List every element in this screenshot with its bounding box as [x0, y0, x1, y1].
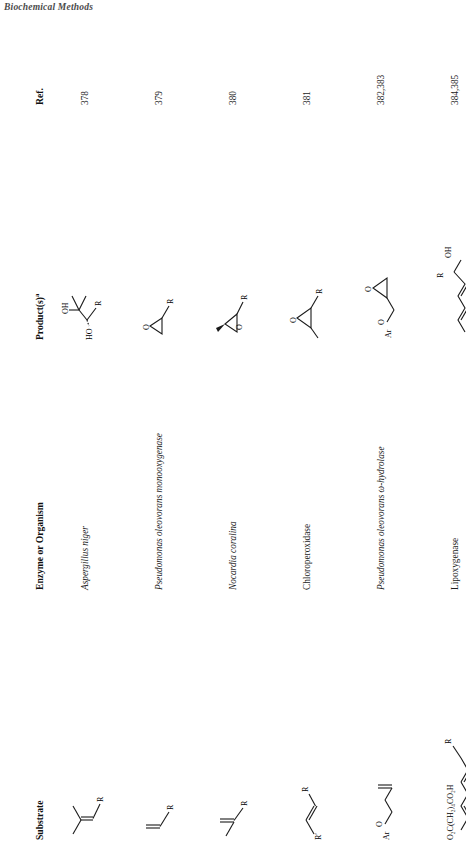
table-row: R Nocardia coralina: [196, 20, 270, 840]
skeletal-structure-allyl-aryl-ether: Ar O: [361, 762, 401, 840]
substrate-cell-5: Ar O: [344, 590, 418, 840]
structure-product-3: O R: [213, 111, 253, 340]
ref-cell-2: 379: [122, 20, 196, 105]
skeletal-structure-chiral-epoxide-wedge: O R: [213, 280, 253, 340]
skeletal-structure-terminal-epoxide: O R: [140, 284, 178, 340]
atom-label-r: R: [166, 298, 175, 304]
column-header-ref: Ref.: [33, 20, 48, 105]
ref-cell-4: 381: [270, 20, 344, 105]
structure-substrate-3: R: [214, 596, 252, 840]
atom-label-oh-top: OH: [61, 302, 70, 314]
atom-label-o: O: [235, 324, 244, 330]
enzyme-cell-3: Nocardia coralina: [196, 340, 270, 590]
atom-label-ar: Ar: [382, 831, 391, 840]
substrate-cell-6: O₂C(CH₂)₄CO₂H R: [418, 590, 466, 840]
substrate-cell-3: R: [196, 590, 270, 840]
column-header-enzyme: Enzyme or Organism: [33, 340, 48, 590]
atom-label-r: R: [240, 294, 249, 300]
atom-label-r: R: [315, 288, 324, 294]
table-row: Ar O Pseudomonas oleovorans ω-hydrolase: [344, 20, 418, 840]
enzyme-cell-5: Pseudomonas oleovorans ω-hydrolase: [344, 340, 418, 590]
skeletal-structure-aryloxymethyl-epoxide: Ar O O: [357, 254, 405, 340]
structure-substrate-4: R′ R: [288, 596, 326, 840]
skeletal-structure-tertiary-diol: OH HO R: [63, 266, 107, 340]
structure-substrate-5: Ar O: [361, 596, 401, 840]
ref-cell-6: 384,385: [418, 20, 466, 105]
table-row: R′ R Chloroperoxidase: [270, 20, 344, 840]
skeletal-structure-terminal-alkene: R: [140, 790, 178, 840]
ref-cell-1: 378: [48, 20, 122, 105]
column-header-product-label: Product(s): [34, 297, 45, 340]
product-cell-2: O R: [122, 105, 196, 340]
table-row: R Aspergillus niger: [48, 20, 122, 840]
structure-substrate-1: R: [65, 596, 105, 840]
product-cell-3: O R: [196, 105, 270, 340]
skeletal-structure-trisubstituted-alkene: R: [65, 782, 105, 840]
structure-product-4: O R: [287, 111, 327, 340]
atom-label-o: O: [142, 324, 151, 330]
skeletal-structure-disubstituted-epoxide: O R: [287, 274, 327, 340]
skeletal-structure-conjugated-hydroxy-diene: R OH: [429, 228, 466, 340]
atom-label-r: R: [240, 800, 249, 806]
column-header-product: Product(s)a: [33, 105, 48, 340]
atom-label-ho: HO: [85, 328, 94, 340]
structure-substrate-6: O₂C(CH₂)₄CO₂H R: [429, 596, 466, 840]
enzyme-cell-1: Aspergillus niger: [48, 340, 122, 590]
atom-label-r: R: [94, 300, 103, 306]
enzyme-cell-4: Chloroperoxidase: [270, 340, 344, 590]
structure-substrate-2: R: [140, 596, 178, 840]
table-header-row: Substrate Enzyme or Organism Product(s)a…: [33, 20, 48, 840]
atom-label-r-prime: R′: [314, 832, 323, 839]
atom-label-r: R: [436, 272, 445, 278]
rotated-table: Substrate Enzyme or Organism Product(s)a…: [33, 20, 433, 840]
book-page: Biochemical Methods Substrate Enzyme or …: [0, 0, 466, 859]
rotated-table-wrapper: Substrate Enzyme or Organism Product(s)a…: [0, 0, 466, 859]
product-cell-5: Ar O O: [344, 105, 418, 340]
atom-label-r: R: [166, 804, 175, 810]
ref-cell-5: 382,383: [344, 20, 418, 105]
skeletal-structure-1-1-disubstituted-alkene: R: [214, 786, 252, 840]
structure-product-1: OH HO R: [63, 111, 107, 340]
table-row: O₂C(CH₂)₄CO₂H R Lipoxygenase: [418, 20, 466, 840]
structure-product-2: O R: [140, 111, 178, 340]
stereo-wedge-bold: [216, 324, 225, 332]
enzyme-cell-6: Lipoxygenase: [418, 340, 466, 590]
substrate-cell-2: R: [122, 590, 196, 840]
table-row: R Pseudomonas oleovorans monooxygenase: [122, 20, 196, 840]
atom-label-oh: OH: [444, 246, 453, 258]
product-cell-6: R OH: [418, 105, 466, 340]
atom-label-r: R: [444, 738, 453, 744]
substrate-cell-1: R: [48, 590, 122, 840]
structure-product-5: Ar O O: [357, 111, 405, 340]
structure-product-6: R OH: [429, 111, 466, 340]
atom-label-r: R: [96, 796, 105, 802]
atom-label-o-epoxide: O: [364, 286, 373, 292]
atom-label-ar: Ar: [384, 329, 393, 338]
product-cell-1: OH HO R: [48, 105, 122, 340]
ref-cell-3: 380: [196, 20, 270, 105]
atom-label-chain: O₂C(CH₂)₄CO₂H: [446, 784, 455, 840]
product-footnote-marker: a: [33, 293, 40, 296]
atom-label-o: O: [375, 821, 384, 827]
atom-label-o-ether: O: [377, 319, 386, 325]
skeletal-structure-disubstituted-alkene: R′ R: [288, 774, 326, 840]
skeletal-structure-polyunsaturated-fatty-acid: O₂C(CH₂)₄CO₂H R: [429, 712, 466, 840]
substrate-cell-4: R′ R: [270, 590, 344, 840]
atom-label-o: O: [289, 317, 298, 323]
atom-label-r: R: [301, 786, 310, 792]
product-cell-4: O R: [270, 105, 344, 340]
column-header-substrate: Substrate: [33, 590, 48, 840]
enzyme-cell-2: Pseudomonas oleovorans monooxygenase: [122, 340, 196, 590]
reaction-table: Substrate Enzyme or Organism Product(s)a…: [33, 20, 466, 840]
